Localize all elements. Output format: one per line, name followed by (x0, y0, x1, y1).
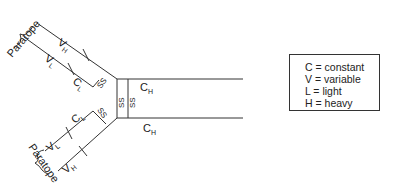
ch-top-label: CH (140, 81, 153, 95)
paratope-top-label: Paratope (4, 17, 42, 59)
legend-box: C = constant V = variable L = light H = … (289, 54, 380, 111)
ss-vertical-2: SS (128, 97, 137, 108)
bottom-arm-heavy-chain (58, 118, 117, 171)
ss-vertical-1: SS (117, 97, 126, 108)
top-arm-heavy-chain (37, 23, 117, 79)
legend-item-variable: V = variable (305, 73, 379, 85)
vh-top-label: VH (55, 36, 73, 55)
cl-bottom-label: CL (69, 109, 87, 127)
ss-top-label: SS (95, 76, 108, 90)
ch-bottom-label: CH (143, 122, 156, 136)
legend-item-heavy: H = heavy (305, 97, 379, 109)
legend-item-light: L = light (305, 85, 379, 97)
cl-top-label: CL (70, 75, 88, 93)
top-heavy-tick (83, 49, 89, 61)
ss-bottom-label: SS (95, 106, 108, 120)
legend-item-constant: C = constant (305, 61, 379, 73)
